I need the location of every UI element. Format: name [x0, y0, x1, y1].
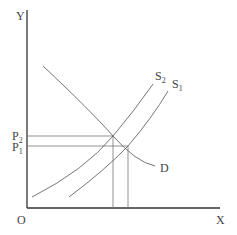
- supply-2-label: S2: [155, 69, 166, 85]
- y-axis-label: Y: [16, 9, 25, 23]
- x-axis-label: X: [216, 213, 225, 227]
- supply-1-curve: [69, 91, 168, 197]
- origin-label: O: [17, 213, 26, 227]
- supply-demand-diagram: Y X O P2 P1 D S2 S1: [0, 0, 237, 235]
- supply-2-curve: [32, 84, 153, 197]
- demand-label: D: [160, 161, 169, 175]
- supply-1-label: S1: [172, 77, 183, 93]
